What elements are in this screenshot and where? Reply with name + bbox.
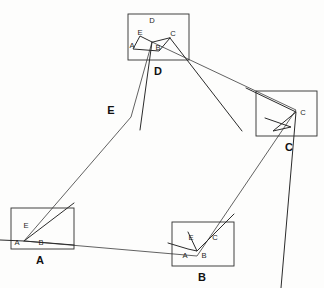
callout-b: E C A B B [168,214,234,283]
callout-a-vertex-label-e: E [23,221,28,230]
callout-c: C C [246,88,317,288]
callout-c-title: C [285,141,293,153]
callout-d-vertex-label-d: D [149,16,155,25]
callout-c-vertex-label-c: C [300,108,306,117]
callout-a-title: A [36,254,44,266]
callout-a: E A B A [0,203,74,266]
outer-label-e: E [107,104,114,116]
figure-canvas: E E A B A E C A B B C C [0,0,324,288]
callout-d-detail-path [133,36,242,131]
callout-c-box [256,91,317,136]
callout-d-title: D [154,65,162,77]
callout-b-detail-path [168,214,234,251]
callout-b-vertex-label-c: C [212,233,218,242]
geometry-figure: E E A B A E C A B B C C [0,0,324,288]
callout-a-vertex-label-a: A [14,238,20,247]
outer-label-group: E [107,104,114,116]
callout-b-vertex-label-b: B [201,251,206,260]
callout-d-vertex-label-b: B [155,43,160,52]
callout-d-vertex-label-c: C [170,29,176,38]
callout-b-title: B [198,271,206,283]
callout-a-vertex-label-b: B [38,238,43,247]
callout-d: D E C A B D [128,14,242,131]
callout-d-vertex-label-e: E [137,28,142,37]
callout-c-detail-path [246,88,296,288]
callout-d-box [128,14,189,60]
callout-b-vertex-label-e: E [188,233,193,242]
